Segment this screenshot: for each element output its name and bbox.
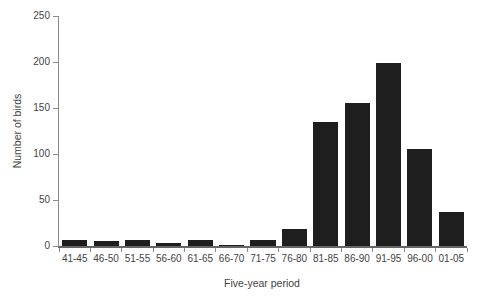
y-tick-label: 0 [44,241,50,251]
bar-chart: Number of birds 05010015020025041-4546-5… [0,0,485,301]
bar [156,243,181,246]
y-tick-label: 250 [33,11,50,21]
x-tick-mark [372,248,373,252]
x-axis-title: Five-year period [58,277,466,289]
x-tick-mark [59,248,60,252]
x-tick-mark [247,248,248,252]
x-tick-mark [341,248,342,252]
x-tick-mark [121,248,122,252]
x-tick-label: 61-65 [187,254,213,264]
bar [125,240,150,246]
y-tick-mark [53,108,58,109]
bar [345,103,370,246]
x-tick-mark [310,248,311,252]
x-tick-label: 81-85 [313,254,339,264]
bar [62,240,87,246]
x-tick-mark [184,248,185,252]
y-tick-mark [53,154,58,155]
y-tick-mark [53,16,58,17]
y-tick-mark [53,246,58,247]
bar [376,63,401,246]
bar [188,240,213,246]
y-tick-label: 200 [33,57,50,67]
x-tick-mark [278,248,279,252]
x-tick-label: 46-50 [93,254,119,264]
x-tick-label: 41-45 [62,254,88,264]
y-tick-label: 100 [33,149,50,159]
bar [250,240,275,246]
x-tick-mark [215,248,216,252]
x-tick-label: 51-55 [125,254,151,264]
x-tick-mark [435,248,436,252]
bar [94,241,119,246]
bar [219,245,244,246]
bar [407,149,432,246]
x-tick-mark [404,248,405,252]
x-tick-mark [153,248,154,252]
bar [282,229,307,246]
y-tick-mark [53,200,58,201]
y-tick-label: 150 [33,103,50,113]
plot-area: 05010015020025041-4546-5051-5556-6061-65… [58,16,467,248]
x-tick-label: 56-60 [156,254,182,264]
x-tick-label: 96-00 [407,254,433,264]
x-tick-label: 91-95 [376,254,402,264]
y-tick-label: 50 [39,195,50,205]
x-tick-label: 76-80 [282,254,308,264]
bar [313,122,338,246]
x-tick-label: 86-90 [344,254,370,264]
y-axis-title: Number of birds [11,94,23,169]
bar [439,212,464,246]
x-tick-mark [90,248,91,252]
x-tick-label: 01-05 [439,254,465,264]
x-tick-label: 66-70 [219,254,245,264]
x-tick-label: 71-75 [250,254,276,264]
y-tick-mark [53,62,58,63]
x-tick-mark [467,248,468,252]
